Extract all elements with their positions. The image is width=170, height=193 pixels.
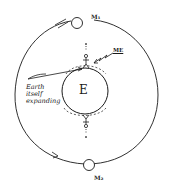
me-pointer-icon bbox=[94, 53, 113, 63]
me-label: ME bbox=[113, 48, 123, 54]
moon-top-label: M₁ bbox=[91, 14, 100, 20]
earth-label: E bbox=[79, 84, 88, 96]
moon-bottom-icon bbox=[84, 160, 95, 171]
moon-top-icon bbox=[72, 18, 83, 29]
expanding-arrow-icon bbox=[28, 67, 82, 79]
note-line-3: expanding bbox=[26, 98, 60, 105]
diagram-canvas: M₁ M₂ E ME Earth itself expanding bbox=[0, 0, 170, 193]
person-top-icon bbox=[83, 44, 89, 69]
person-bottom-icon bbox=[83, 115, 89, 138]
expanding-note: Earth itself expanding bbox=[26, 84, 60, 105]
moon-bottom-label: M₂ bbox=[94, 175, 103, 181]
